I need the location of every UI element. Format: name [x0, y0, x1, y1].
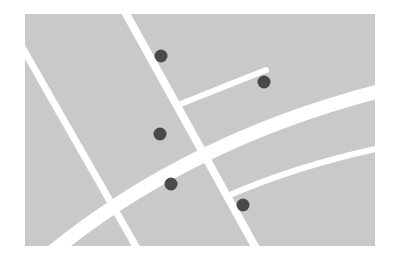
marker-3-pin-icon[interactable]: [154, 128, 167, 141]
marker-5-pin-icon[interactable]: [237, 199, 250, 212]
marker-1-pin-icon[interactable]: [155, 50, 168, 63]
map-area: [25, 14, 375, 246]
marker-4-pin-icon[interactable]: [165, 178, 178, 191]
map-canvas[interactable]: [0, 0, 399, 269]
marker-2-pin-icon[interactable]: [258, 76, 271, 89]
